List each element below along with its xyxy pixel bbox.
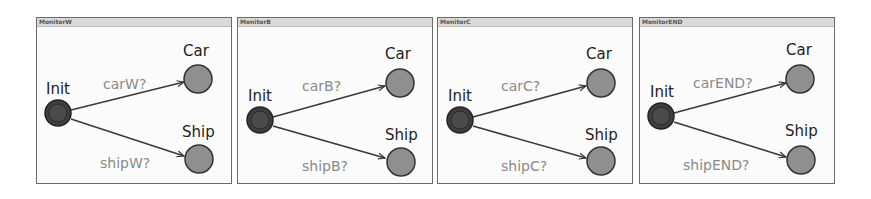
initial-state-ring-icon [652,107,670,125]
edge-init-to-ship[interactable] [473,126,586,158]
ship-edge-label: shipW? [100,155,150,171]
ship-state-label: Ship [385,126,418,144]
ship-state-node[interactable] [185,145,213,173]
init-state-label: Init [46,80,70,98]
ship-state-node[interactable] [787,146,815,174]
ship-edge-label: shipC? [501,158,547,174]
ship-state-node[interactable] [387,148,415,176]
car-edge-label: carEND? [693,75,753,91]
car-state-node[interactable] [184,65,212,93]
initial-state-ring-icon [49,104,67,122]
init-state-label: Init [248,87,272,105]
automaton-panel-monitorb: MonitorB Init Car Ship carB? shipB? [237,17,433,184]
init-state-label: Init [650,83,674,101]
car-state-node[interactable] [587,69,615,97]
car-edge-label: carB? [302,78,341,94]
car-state-label: Car [586,45,613,63]
car-state-label: Car [183,42,210,60]
automaton-graph: Init Car Ship carW? shipW? [37,18,233,185]
edge-init-to-ship[interactable] [674,122,786,157]
car-state-label: Car [786,41,813,59]
car-state-node[interactable] [786,65,814,93]
car-state-label: Car [385,45,412,63]
automaton-panel-monitorw: MonitorW Init Car Ship carW? shipW? [36,17,232,184]
ship-state-label: Ship [182,123,215,141]
car-edge-label: carW? [103,76,146,92]
automaton-panel-monitorend: MonitorEND Init Car Ship carEND? shipEND… [639,17,835,184]
automaton-graph: Init Car Ship carEND? shipEND? [640,18,836,185]
initial-state-ring-icon [251,111,269,129]
edge-init-to-ship[interactable] [273,126,385,158]
ship-edge-label: shipB? [302,158,348,174]
automaton-panel-monitorc: MonitorC Init Car Ship carC? shipC? [437,17,633,184]
ship-state-node[interactable] [587,147,615,175]
ship-state-label: Ship [785,122,818,140]
car-state-node[interactable] [386,69,414,97]
automaton-graph: Init Car Ship carB? shipB? [238,18,434,185]
initial-state-ring-icon [451,111,469,129]
ship-state-label: Ship [585,126,618,144]
init-state-label: Init [448,87,472,105]
automaton-graph: Init Car Ship carC? shipC? [438,18,634,185]
ship-edge-label: shipEND? [683,157,749,173]
edge-init-to-ship[interactable] [71,119,184,156]
car-edge-label: carC? [501,78,540,94]
